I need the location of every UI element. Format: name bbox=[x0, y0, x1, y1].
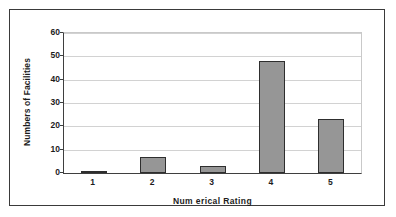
y-axis-tick-label: 30 bbox=[14, 98, 60, 107]
bar bbox=[140, 157, 166, 173]
y-axis-tick-label: 0 bbox=[14, 168, 60, 177]
chart-figure: Numbers of Facilities 0102030405060 1234… bbox=[9, 9, 385, 206]
x-axis-tick-label: 1 bbox=[73, 178, 113, 187]
bar bbox=[318, 119, 344, 173]
x-axis-tick-label: 2 bbox=[132, 178, 172, 187]
y-axis-tick-label: 20 bbox=[14, 121, 60, 130]
x-axis-tick-label: 3 bbox=[192, 178, 232, 187]
y-axis-tick-label: 10 bbox=[14, 145, 60, 154]
y-axis-tick-label: 50 bbox=[14, 51, 60, 60]
y-axis-tick-label: 40 bbox=[14, 75, 60, 84]
y-axis-tick-labels: 0102030405060 bbox=[10, 32, 60, 174]
bar-series bbox=[64, 33, 361, 173]
bar bbox=[259, 61, 285, 173]
x-axis-tick-label: 5 bbox=[310, 178, 350, 187]
y-axis-tick-label: 60 bbox=[14, 28, 60, 37]
x-axis-tick-labels: 12345 bbox=[63, 178, 362, 192]
bar bbox=[81, 171, 107, 174]
x-axis-title: Num erical Rating bbox=[63, 196, 362, 206]
x-axis-tick-label: 4 bbox=[251, 178, 291, 187]
plot-area bbox=[63, 32, 362, 174]
bar bbox=[200, 166, 226, 173]
